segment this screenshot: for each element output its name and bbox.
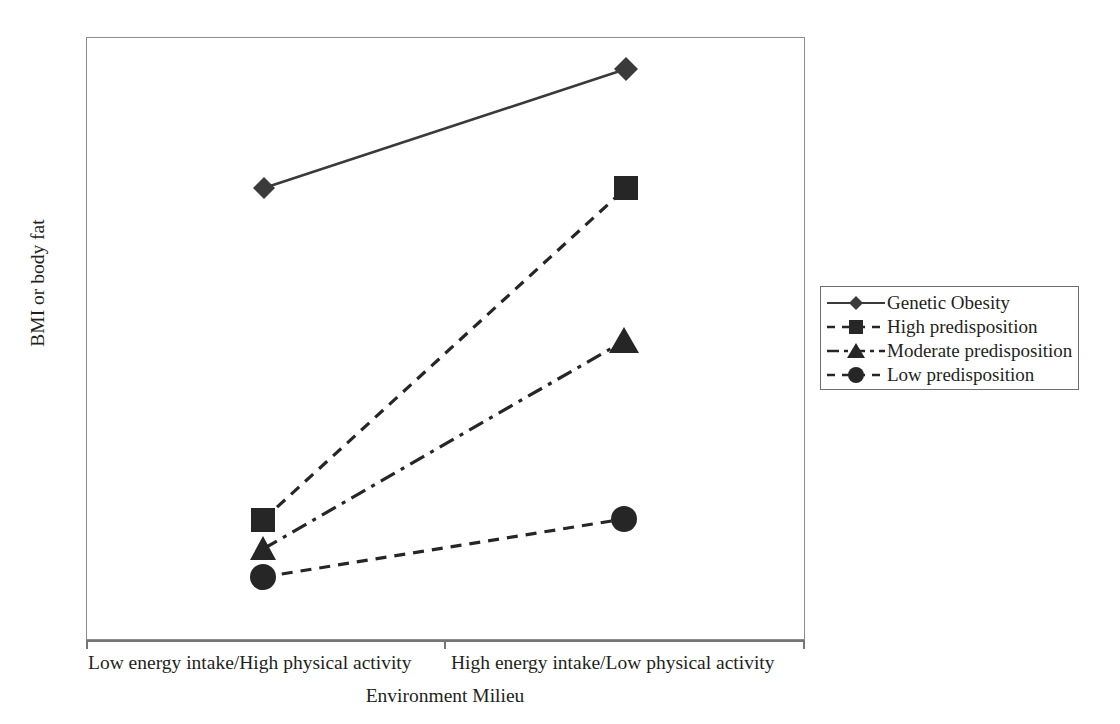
legend-item-high-predisposition: High predisposition bbox=[821, 315, 1078, 339]
legend-item-low-predisposition: Low predisposition bbox=[821, 363, 1078, 387]
legend: Genetic Obesity High predisposition Mode… bbox=[820, 286, 1079, 390]
x-tick-label-high-energy: High energy intake/Low physical activity bbox=[451, 650, 774, 676]
legend-item-moderate-predisposition: Moderate predisposition bbox=[821, 339, 1078, 363]
legend-label-high-predisposition: High predisposition bbox=[887, 316, 1037, 338]
legend-key-square-icon bbox=[825, 316, 887, 338]
legend-label-genetic-obesity: Genetic Obesity bbox=[887, 292, 1010, 314]
plot-area bbox=[86, 37, 805, 640]
legend-key-diamond-icon bbox=[825, 292, 887, 314]
legend-key-triangle-icon bbox=[825, 340, 887, 362]
x-axis bbox=[86, 640, 805, 641]
legend-label-low-predisposition: Low predisposition bbox=[887, 364, 1034, 386]
x-axis-line bbox=[86, 640, 805, 642]
x-tick-label-low-energy: Low energy intake/High physical activity bbox=[88, 650, 411, 676]
chart-figure: Low energy intake/High physical activity… bbox=[0, 0, 1120, 724]
x-axis-tick-center bbox=[444, 640, 446, 649]
x-axis-tick-right bbox=[803, 640, 805, 649]
x-axis-tick-left bbox=[86, 640, 88, 649]
y-axis-title: BMI or body fat bbox=[25, 193, 51, 373]
x-axis-title: Environment Milieu bbox=[0, 683, 890, 709]
legend-label-moderate-predisposition: Moderate predisposition bbox=[887, 340, 1072, 362]
legend-item-genetic-obesity: Genetic Obesity bbox=[821, 291, 1078, 315]
legend-key-circle-icon bbox=[825, 364, 887, 386]
